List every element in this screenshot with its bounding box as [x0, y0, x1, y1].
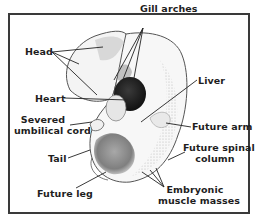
label-head: Head: [25, 46, 53, 57]
label-severed-umbilical-cord-line1: Severed: [14, 114, 72, 125]
label-future-spinal-column-line2: column: [183, 153, 247, 164]
label-severed-umbilical-cord: Severed umbilical cord: [14, 114, 72, 136]
liver-shape: [106, 95, 126, 121]
label-future-leg: Future leg: [37, 188, 93, 199]
label-future-spinal-column: Future spinal column: [183, 142, 247, 164]
label-future-spinal-column-line1: Future spinal: [183, 142, 247, 153]
label-heart: Heart: [35, 93, 66, 104]
label-future-arm: Future arm: [192, 121, 253, 132]
label-liver: Liver: [198, 75, 225, 86]
label-severed-umbilical-cord-line2: umbilical cord: [14, 125, 72, 136]
label-tail: Tail: [48, 153, 67, 164]
label-gill-arches: Gill arches: [140, 3, 198, 14]
label-embryonic-muscle-masses-line1: Embryonic: [158, 184, 232, 195]
label-embryonic-muscle-masses-line2: muscle masses: [158, 195, 232, 206]
label-embryonic-muscle-masses: Embryonic muscle masses: [158, 184, 232, 206]
